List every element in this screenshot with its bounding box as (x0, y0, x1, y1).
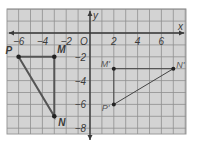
grid-background (7, 9, 186, 134)
y-tick-label: −2 (75, 52, 87, 63)
y-axis-label: y (92, 10, 99, 21)
x-tick-label: −4 (37, 36, 49, 47)
point-n-prime (171, 67, 175, 71)
y-axis-down-arrow-icon (88, 135, 93, 140)
point-m (52, 55, 57, 60)
point-p-prime (112, 102, 116, 106)
x-tick-label: 4 (135, 36, 141, 47)
x-tick-label: −6 (13, 36, 25, 47)
x-tick-label: 6 (159, 36, 165, 47)
point-label-m-prime: M' (101, 59, 110, 69)
x-axis-label: x (177, 21, 184, 32)
y-tick-label: −4 (75, 76, 87, 87)
point-label-m: M (57, 44, 66, 55)
point-label-n: N (58, 117, 66, 128)
point-p (16, 55, 21, 60)
point-m-prime (112, 67, 116, 71)
coordinate-plane-figure: xyO −6−4−2246−2−4−6−8 PMNP'M'N' (0, 0, 197, 148)
x-tick-label: 2 (110, 36, 117, 47)
point-label-p: P (6, 45, 13, 56)
origin-label: O (80, 36, 88, 47)
point-label-n-prime: N' (176, 60, 184, 70)
y-tick-label: −8 (75, 123, 87, 134)
y-tick-label: −6 (75, 99, 87, 110)
point-label-p-prime: P' (102, 103, 110, 113)
point-n (52, 114, 57, 119)
